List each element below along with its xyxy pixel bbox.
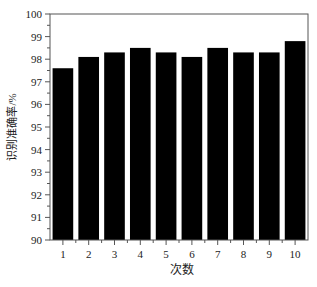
y-tick-label: 90 [31, 234, 43, 246]
bar-9 [259, 52, 280, 240]
y-tick-label: 92 [31, 189, 42, 201]
x-axis: 12345678910 [60, 240, 301, 260]
y-tick-label: 99 [31, 31, 43, 43]
y-tick-label: 95 [31, 121, 43, 133]
bar-1 [53, 68, 74, 240]
y-tick-label: 96 [31, 98, 43, 110]
y-tick-label: 93 [31, 166, 43, 178]
y-axis: 90919293949596979899100 [26, 8, 51, 246]
bar-2 [78, 57, 99, 240]
bars [53, 41, 306, 240]
x-tick-label: 2 [86, 248, 92, 260]
x-tick-label: 7 [215, 248, 221, 260]
x-tick-label: 6 [189, 248, 195, 260]
y-tick-label: 94 [31, 144, 43, 156]
bar-5 [156, 52, 177, 240]
x-axis-label: 次数 [170, 262, 194, 277]
y-tick-label: 98 [31, 53, 43, 65]
bar-10 [285, 41, 306, 240]
x-tick-label: 4 [138, 248, 144, 260]
x-tick-label: 3 [112, 248, 118, 260]
x-tick-label: 5 [163, 248, 169, 260]
x-tick-label: 8 [241, 248, 247, 260]
x-tick-label: 9 [267, 248, 273, 260]
bar-7 [207, 48, 228, 240]
bar-3 [104, 52, 125, 240]
bar-chart: 90919293949596979899100 12345678910 次数 识… [0, 0, 317, 287]
y-tick-label: 100 [26, 8, 43, 20]
y-tick-label: 91 [31, 211, 42, 223]
y-axis-label: 识别准确率/% [5, 93, 18, 160]
y-tick-label: 97 [31, 76, 43, 88]
bar-6 [182, 57, 203, 240]
bar-4 [130, 48, 151, 240]
x-tick-label: 1 [60, 248, 66, 260]
x-tick-label: 10 [290, 248, 302, 260]
bar-8 [233, 52, 254, 240]
